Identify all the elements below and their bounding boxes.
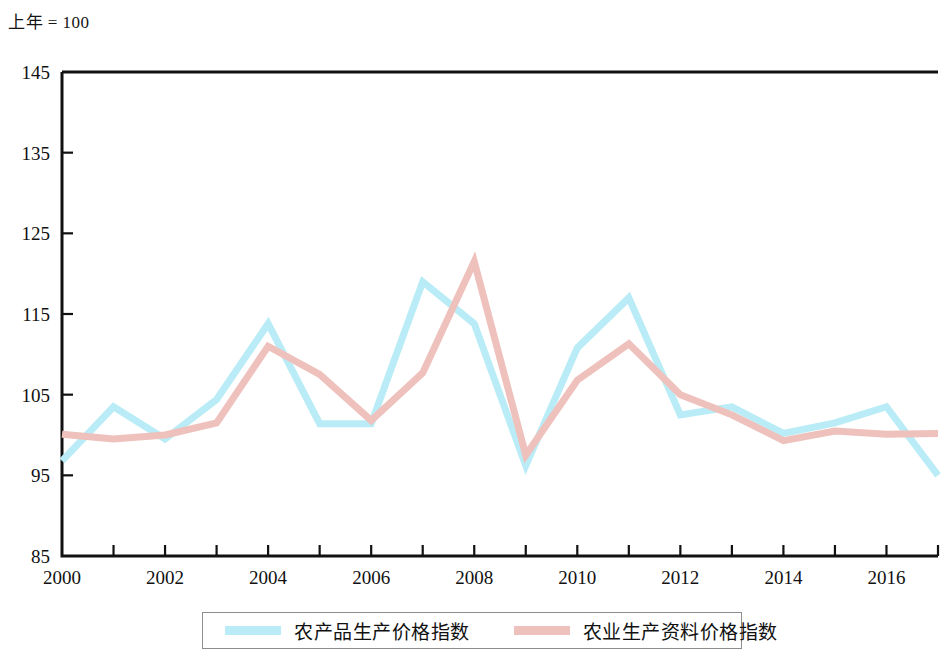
legend-swatch-icon-1 (514, 626, 570, 635)
series-line-0 (62, 282, 938, 476)
chart-legend: 农产品生产价格指数 农业生产资料价格指数 (202, 612, 742, 649)
y-axis-tick-labels: 8595105115125135145 (22, 62, 51, 567)
x-axis-tick-label: 2010 (558, 567, 596, 588)
x-axis-tick-label: 2000 (43, 567, 81, 588)
x-axis-tick-label: 2012 (661, 567, 699, 588)
x-axis-tick-label: 2004 (249, 567, 288, 588)
x-axis-tick-label: 2014 (764, 567, 803, 588)
chart-container: 上年 = 100 8595105115125135145 20002002200… (0, 0, 945, 649)
chart-series (62, 262, 938, 476)
x-axis-tick-labels: 200020022004200620082010201220142016 (43, 567, 905, 588)
line-chart-plot: 8595105115125135145 20002002200420062008… (0, 0, 945, 649)
x-axis-tick-label: 2002 (146, 567, 184, 588)
y-axis-tick-label: 105 (22, 385, 51, 406)
y-axis-tick-label: 85 (31, 546, 50, 567)
axis-spine (62, 72, 938, 556)
chart-axes (62, 72, 938, 556)
legend-swatch-icon-0 (225, 626, 281, 635)
x-axis-tick-label: 2006 (352, 567, 390, 588)
y-axis-tick-label: 115 (22, 304, 50, 325)
x-axis-tick-label: 2016 (867, 567, 905, 588)
y-axis-tick-label: 135 (22, 143, 51, 164)
legend-label-0: 农产品生产价格指数 (294, 617, 470, 644)
y-axis-tick-label: 95 (31, 465, 50, 486)
y-axis-tick-label: 145 (22, 62, 51, 83)
x-axis-tick-label: 2008 (455, 567, 493, 588)
legend-label-1: 农业生产资料价格指数 (583, 617, 778, 644)
y-axis-tick-label: 125 (22, 223, 51, 244)
legend-item-0: 农产品生产价格指数 (225, 617, 470, 644)
legend-item-1: 农业生产资料价格指数 (514, 617, 778, 644)
